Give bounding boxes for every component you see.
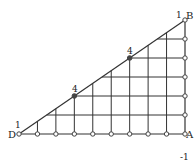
point-weight-lower: 4	[72, 84, 78, 94]
vertex-label-d: D	[8, 129, 16, 140]
base-node	[146, 132, 150, 136]
grid-lines	[19, 20, 185, 134]
corner-note: -1	[180, 152, 189, 162]
triangle-grid-diagram: D 1 A B 1 4 4 -1	[0, 0, 194, 162]
base-node	[127, 132, 131, 136]
marked-point-mid-upper	[127, 56, 132, 61]
base-node	[35, 132, 39, 136]
base-node	[164, 132, 168, 136]
vertex-weight-b: 1	[176, 10, 182, 20]
vertex-node-d	[17, 132, 21, 136]
side-node	[183, 75, 187, 79]
vertex-weight-d: 1	[15, 120, 21, 130]
point-weight-upper: 4	[127, 46, 133, 56]
marked-point-mid-lower	[72, 94, 77, 99]
side-node	[183, 56, 187, 60]
vertex-label-a: A	[185, 129, 194, 140]
side-node	[183, 37, 187, 41]
base-node	[109, 132, 113, 136]
base-node	[72, 132, 76, 136]
vertex-label-b: B	[186, 10, 193, 21]
base-node	[91, 132, 95, 136]
base-node	[54, 132, 58, 136]
side-node	[183, 113, 187, 117]
side-node	[183, 94, 187, 98]
